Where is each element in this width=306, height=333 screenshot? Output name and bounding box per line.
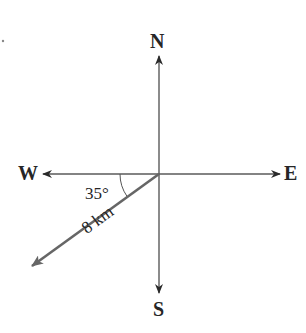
east-label: E	[284, 162, 297, 185]
south-label: S	[153, 298, 164, 321]
north-label: N	[150, 30, 164, 53]
west-label: W	[18, 162, 38, 185]
angle-arc	[120, 174, 127, 196]
stray-dot	[2, 40, 4, 42]
